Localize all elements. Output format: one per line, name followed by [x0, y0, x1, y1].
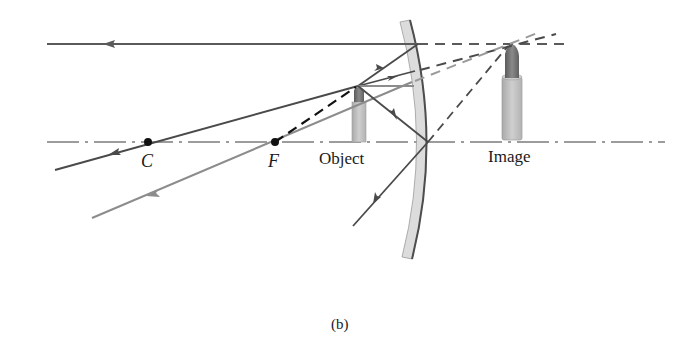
label-c: C	[141, 152, 153, 170]
figure-caption: (b)	[331, 317, 349, 332]
arrow-down-left-icon	[373, 192, 381, 204]
arrow-down-right-icon	[389, 108, 397, 120]
convex-mirror	[400, 20, 427, 259]
ray-focus-construction-dashed	[275, 87, 356, 142]
ray-focus-virtual-extension	[415, 32, 540, 81]
label-image: Image	[488, 148, 530, 165]
ray-tip-to-mirror-top	[358, 44, 418, 86]
object-candle-icon	[352, 87, 366, 142]
image-candle-icon	[502, 44, 522, 140]
diagram-canvas: C F Object Image (b)	[0, 0, 687, 342]
label-object: Object	[319, 150, 364, 167]
ray-through-center	[55, 86, 358, 170]
arrow-up-right-icon	[374, 64, 384, 71]
label-f: F	[268, 152, 279, 170]
ray-diagram	[0, 0, 687, 342]
center-of-curvature-point	[144, 138, 152, 146]
ray-center-virtual-extension	[420, 34, 556, 70]
focal-point	[271, 138, 279, 146]
